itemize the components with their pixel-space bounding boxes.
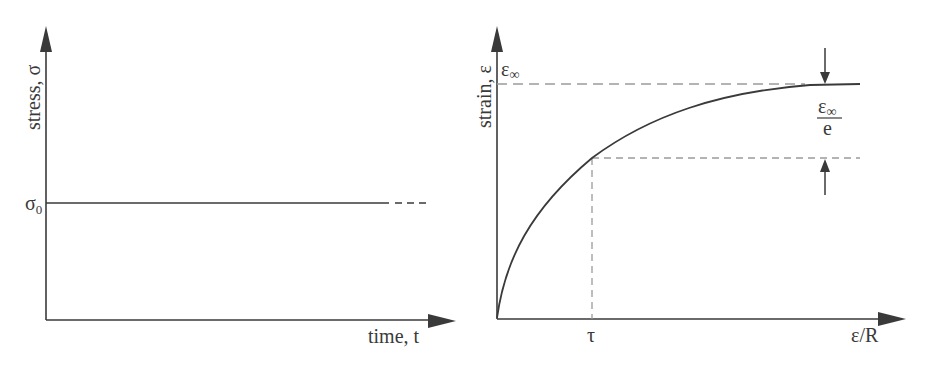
creep-curve [497,84,860,318]
fraction-numerator: ε∞ [818,95,836,119]
time-x-axis-label: time, t [368,325,420,347]
strain-y-axis-label: strain, ε [473,65,495,128]
fraction-label: ε∞ e [817,95,842,139]
stress-chart: stress, σ time, t σ0 [22,26,456,347]
y-axis-arrow-icon [40,26,52,52]
stress-y-axis-label: stress, σ [22,65,44,130]
creep-diagram: stress, σ time, t σ0 strain, ε ε∞ τ ε/R … [0,0,929,365]
sigma0-label: σ0 [25,192,42,217]
down-arrow-icon [820,72,830,84]
tau-label: τ [587,324,595,346]
strain-rate-x-axis-label: ε/R [851,324,879,346]
epsilon-infinity-label: ε∞ [501,58,519,82]
x-axis-arrow-icon [878,312,906,326]
up-arrow-icon [820,159,830,172]
strain-chart: strain, ε ε∞ τ ε/R ε∞ e [473,26,906,346]
fraction-denominator: e [823,117,832,139]
x-axis-arrow-icon [428,314,456,328]
y-axis-arrow-icon [491,26,503,52]
